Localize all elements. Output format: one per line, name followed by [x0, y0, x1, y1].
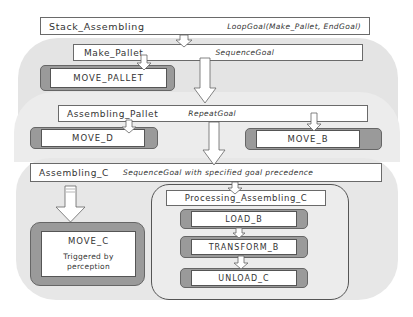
arrow-stack-to-make-pallet-icon	[0, 0, 413, 317]
